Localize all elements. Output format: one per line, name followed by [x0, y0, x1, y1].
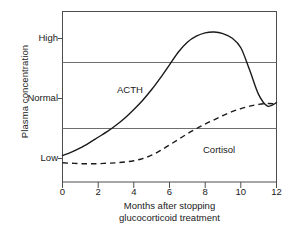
x-tick-2: 2: [86, 186, 110, 197]
x-axis-title-line1: Months after stopping: [62, 200, 277, 212]
y-tick-low: Low: [0, 152, 58, 164]
chart-figure: Plasma concentration High Normal Low 0 2…: [0, 0, 292, 233]
y-tick-low-label: Low: [4, 152, 58, 163]
y-tick-normal-label: Normal: [4, 92, 58, 103]
x-tick-0: 0: [51, 186, 75, 197]
y-tick-normal: Normal: [0, 92, 58, 104]
x-tick-12: 12: [265, 186, 289, 197]
y-tick-high-label: High: [4, 32, 58, 43]
x-axis-title: Months after stopping glucocorticoid tre…: [62, 200, 277, 223]
x-axis-title-line2: glucocorticoid treatment: [62, 212, 277, 224]
x-tick-10: 10: [229, 186, 253, 197]
y-axis-ticks: [58, 39, 63, 159]
y-tick-high: High: [0, 32, 58, 44]
plot-frame: [63, 12, 277, 183]
x-tick-6: 6: [158, 186, 182, 197]
series-label-cortisol: Cortisol: [203, 144, 235, 155]
x-tick-8: 8: [193, 186, 217, 197]
x-tick-4: 4: [122, 186, 146, 197]
series-label-acth: ACTH: [117, 84, 143, 95]
